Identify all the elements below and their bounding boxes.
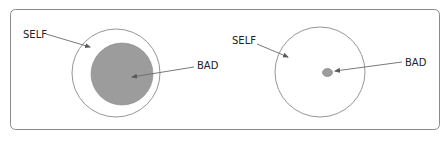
left-self-label: SELF: [23, 29, 47, 40]
left-bad-label: BAD: [197, 60, 219, 71]
self-bad-diagram: SELF BAD SELF BAD: [0, 0, 448, 142]
diagram-frame: [11, 10, 440, 130]
right-self-label: SELF: [232, 35, 256, 46]
left-bad-region: [91, 43, 153, 105]
right-bad-region: [323, 69, 333, 77]
right-bad-label: BAD: [405, 57, 427, 68]
